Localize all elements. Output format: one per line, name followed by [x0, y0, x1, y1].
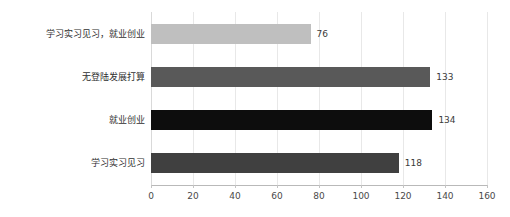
x-tick-label: 0 [148, 190, 154, 202]
bar[interactable] [151, 67, 430, 87]
x-tick-label: 20 [187, 190, 198, 202]
x-tick-label: 60 [271, 190, 282, 202]
x-tick-label: 160 [478, 190, 495, 202]
bar-row: 76 [151, 24, 487, 44]
x-tick-mark [403, 185, 404, 188]
bar[interactable] [151, 24, 311, 44]
bar-value-label: 133 [436, 71, 453, 83]
x-tick-label: 100 [352, 190, 369, 202]
bar-row: 118 [151, 153, 487, 173]
bar-chart: 学习实习见习，就业创业无登陆发展打算就业创业学习实习见习 76133134118… [0, 0, 510, 217]
bar[interactable] [151, 110, 432, 130]
bar-row: 134 [151, 110, 487, 130]
bar[interactable] [151, 153, 399, 173]
x-tick-mark [487, 185, 488, 188]
bar-value-label: 134 [438, 114, 455, 126]
x-tick-label: 140 [436, 190, 453, 202]
category-label: 就业创业 [0, 114, 145, 126]
x-tick-mark [361, 185, 362, 188]
x-tick-label: 120 [394, 190, 411, 202]
gridline [487, 12, 488, 185]
x-tick-label: 80 [313, 190, 324, 202]
x-tick-label: 40 [229, 190, 240, 202]
category-label: 无登陆发展打算 [0, 71, 145, 83]
plot-area: 76133134118 [151, 12, 487, 185]
bar-value-label: 118 [405, 157, 422, 169]
bar-value-label: 76 [317, 28, 328, 40]
x-tick-mark [277, 185, 278, 188]
x-tick-mark [319, 185, 320, 188]
x-tick-mark [151, 185, 152, 188]
x-tick-mark [193, 185, 194, 188]
x-tick-mark [445, 185, 446, 188]
category-label: 学习实习见习，就业创业 [0, 28, 145, 40]
x-tick-mark [235, 185, 236, 188]
category-label: 学习实习见习 [0, 157, 145, 169]
bar-row: 133 [151, 67, 487, 87]
category-axis-labels: 学习实习见习，就业创业无登陆发展打算就业创业学习实习见习 [0, 12, 145, 185]
